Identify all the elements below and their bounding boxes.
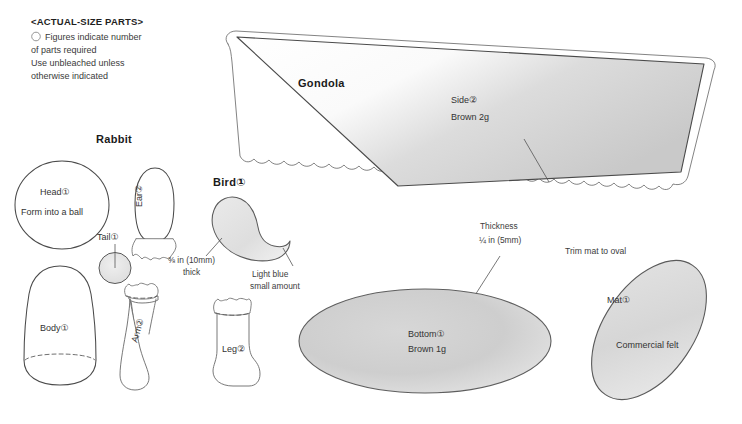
circle-outline-icon [32,32,41,41]
part-label-body: Body① [40,323,69,333]
part-body: Body① [24,266,96,385]
part-label-ear: Ear② [134,185,144,207]
bird-thickness-line-1: ⅜ in (10mm) [168,255,215,265]
gondola-bottom-material: Brown 1g [408,344,446,354]
thickness-line-1: Thickness [480,221,518,231]
gondola-bottom-label: Bottom① [408,329,445,339]
section-title-rabbit: Rabbit [96,133,132,145]
part-label-head: Head① [40,187,70,197]
section-title-gondola: Gondola [298,77,345,89]
bird-thickness-line-2: thick [183,267,201,277]
mat-material: Commercial felt [616,340,679,350]
mat-label: Mat① [607,295,630,305]
pattern-sheet: <ACTUAL-SIZE PARTS> Figures indicate num… [0,0,742,424]
bird-material-line-2: small amount [250,281,300,291]
part-mat: Trim mat to oval Mat① Commercial felt [565,240,730,420]
part-label-tail: Tail① [97,232,119,242]
legend-line-3: Use unbleached unless [31,58,125,68]
gondola-side-label: Side② [451,95,477,105]
part-arm: Arm② [120,283,158,390]
part-bird: Bird① ⅜ in (10mm) thick Light blue small… [168,176,300,291]
part-head: Head① Form into a ball [15,161,109,249]
page-title: <ACTUAL-SIZE PARTS> [31,16,144,27]
mat-trim-note: Trim mat to oval [565,246,626,256]
part-note-head: Form into a ball [21,207,83,217]
gondola-thickness-note: Thickness ¼ in (5mm) [470,221,522,303]
part-ear: Ear② [132,168,176,260]
gondola-side-material: Brown 2g [451,112,489,122]
part-tail: Tail① [97,232,131,284]
part-leg: Leg② [213,298,260,386]
legend-line-4: otherwise indicated [31,71,108,81]
legend-line-2: of parts required [31,45,97,55]
section-title-bird: Bird① [213,176,246,188]
part-gondola-side: Gondola Side② Brown 2g [226,31,715,190]
part-gondola-bottom: Bottom① Brown 1g [299,289,551,393]
thickness-line-2: ¼ in (5mm) [479,235,522,245]
legend-line-1: Figures indicate number [45,32,142,42]
part-label-leg: Leg② [222,344,245,354]
bird-material-line-1: Light blue [252,269,289,279]
